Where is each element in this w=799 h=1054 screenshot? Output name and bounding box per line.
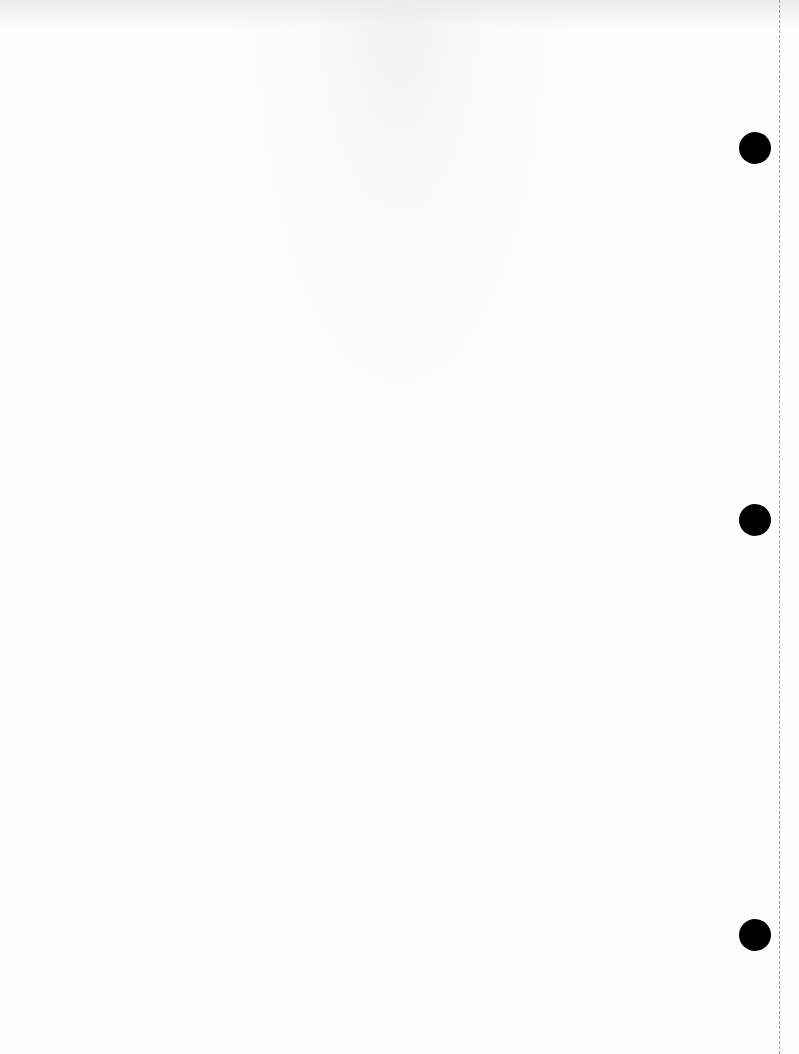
scanned-page xyxy=(0,0,799,1054)
punch-hole-bottom xyxy=(739,919,771,951)
scan-shadow xyxy=(0,0,799,28)
punch-hole-middle xyxy=(739,504,771,536)
perforation-line xyxy=(779,0,780,1054)
punch-hole-top xyxy=(739,132,771,164)
